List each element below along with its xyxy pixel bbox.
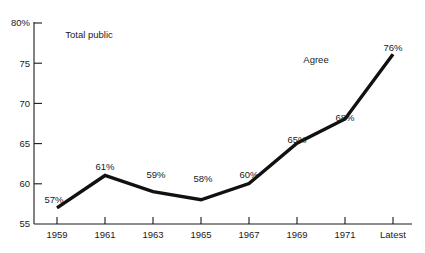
point-label-1963: 59% — [146, 169, 166, 180]
chart-container: 55 60 65 70 75 80% 1959 1961 1963 1965 1… — [0, 0, 425, 253]
annotation-total-public: Total public — [65, 29, 113, 40]
point-label-1969: 65% — [287, 134, 307, 145]
point-label-1971: 68% — [335, 112, 355, 123]
y-tick-label-70: 70 — [19, 98, 30, 109]
x-tick-label-1967: 1967 — [238, 229, 259, 240]
annotation-agree: Agree — [303, 54, 328, 65]
x-tick-label-1965: 1965 — [190, 229, 211, 240]
point-label-1967: 60% — [239, 169, 259, 180]
x-tick-label-1963: 1963 — [142, 229, 163, 240]
y-tick-label-80: 80% — [11, 17, 31, 28]
y-tick-label-75: 75 — [19, 58, 30, 69]
point-label-1965: 58% — [193, 173, 213, 184]
line-chart: 55 60 65 70 75 80% 1959 1961 1963 1965 1… — [0, 0, 425, 253]
point-label-1959: 57% — [44, 194, 64, 205]
x-tick-label-1961: 1961 — [94, 229, 115, 240]
y-tick-label-60: 60 — [19, 178, 30, 189]
point-label-latest: 76% — [383, 42, 403, 53]
y-tick-label-55: 55 — [19, 218, 30, 229]
x-tick-label-1971: 1971 — [334, 229, 355, 240]
series-line-total-public — [57, 54, 393, 208]
x-tick-marks — [57, 217, 393, 224]
y-tick-label-65: 65 — [19, 138, 30, 149]
x-tick-label-1969: 1969 — [286, 229, 307, 240]
y-tick-marks — [34, 23, 42, 184]
x-tick-label-1959: 1959 — [46, 229, 67, 240]
point-label-1961: 61% — [95, 161, 115, 172]
x-tick-label-latest: Latest — [380, 229, 406, 240]
